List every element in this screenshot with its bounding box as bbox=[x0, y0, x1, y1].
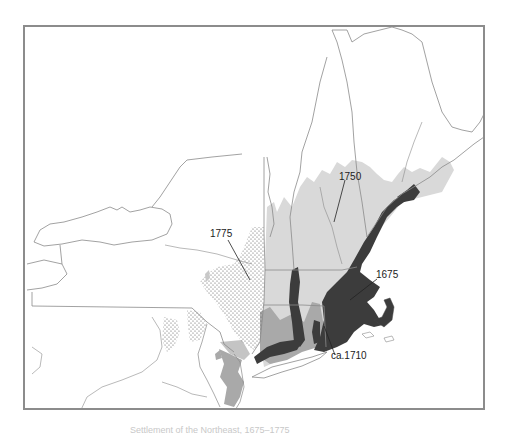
lake-ontario bbox=[34, 207, 172, 246]
maine-canada-border bbox=[332, 27, 484, 132]
label-1675: 1675 bbox=[376, 269, 398, 280]
niagara bbox=[60, 245, 62, 264]
settlement-zone-1775-hudson bbox=[200, 227, 264, 350]
st-lawrence-river bbox=[152, 154, 242, 207]
caption-text: Settlement of the Northeast, 1675–1775 bbox=[130, 425, 290, 434]
pa-river-2 bbox=[162, 382, 207, 397]
marthas-vineyard bbox=[362, 332, 374, 338]
nantucket bbox=[384, 336, 394, 342]
label-1775: 1775 bbox=[210, 228, 232, 239]
label-1750: 1750 bbox=[339, 171, 361, 182]
lake-erie bbox=[27, 260, 67, 290]
settlement-map bbox=[25, 27, 485, 410]
settlement-zone-1775-pa bbox=[162, 317, 180, 352]
settlement-zone-1775-nj bbox=[187, 310, 207, 342]
map-frame: 1750 1775 1675 ca.1710 bbox=[23, 25, 485, 410]
label-1710: ca.1710 bbox=[331, 350, 367, 361]
susquehanna-river bbox=[80, 317, 162, 410]
pa-river-3 bbox=[32, 347, 42, 374]
map-caption: Settlement of the Northeast, 1675–1775 bbox=[0, 424, 510, 434]
